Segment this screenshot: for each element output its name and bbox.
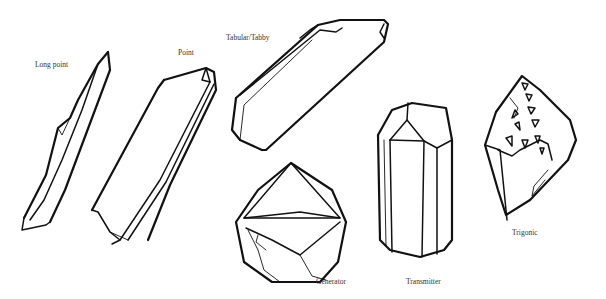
crystal-shapes-illustration: Long point Point Tabular/Tabby Generator… (0, 0, 606, 299)
label-transmitter: Transmitter (406, 277, 441, 286)
label-long-point: Long point (35, 60, 68, 69)
label-tabular: Tabular/Tabby (226, 33, 270, 42)
trigonic-triangles (506, 83, 544, 154)
label-point: Point (178, 48, 194, 57)
label-generator: Generator (316, 277, 346, 286)
label-trigonic: Trigonic (512, 228, 538, 237)
point-crystal (92, 68, 216, 244)
transmitter-crystal (378, 103, 452, 257)
crystal-drawings (0, 0, 606, 299)
generator-crystal (236, 163, 346, 282)
trigonic-crystal (485, 76, 576, 220)
